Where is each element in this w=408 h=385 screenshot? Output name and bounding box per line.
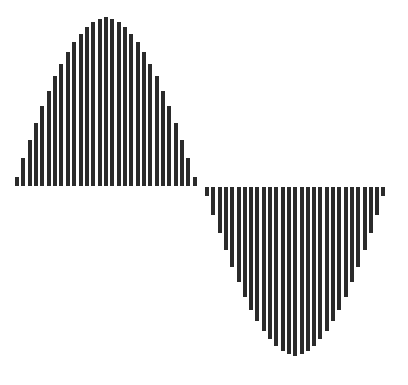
negative-bar xyxy=(300,187,304,354)
negative-bar xyxy=(293,187,297,356)
negative-bar xyxy=(318,187,322,339)
positive-bar xyxy=(129,34,133,186)
positive-bar xyxy=(117,22,121,186)
positive-bar xyxy=(15,177,19,186)
negative-bar xyxy=(325,187,329,331)
positive-bar xyxy=(21,158,25,186)
negative-bar xyxy=(249,187,253,310)
positive-bar xyxy=(136,42,140,186)
negative-bar xyxy=(230,187,234,267)
negative-bar xyxy=(274,187,278,346)
negative-bar xyxy=(281,187,285,351)
positive-bar xyxy=(59,64,63,187)
positive-bar xyxy=(53,76,57,186)
negative-bar xyxy=(356,187,360,267)
positive-bar xyxy=(123,27,127,186)
positive-bar xyxy=(180,140,184,186)
negative-bar xyxy=(211,187,215,215)
negative-bar xyxy=(312,187,316,346)
negative-bar xyxy=(369,187,373,233)
positive-bar xyxy=(79,34,83,186)
positive-bar xyxy=(104,17,108,186)
positive-bar xyxy=(174,123,178,186)
positive-bar xyxy=(193,177,197,186)
negative-bar xyxy=(331,187,335,321)
positive-bar xyxy=(167,106,171,186)
positive-bar xyxy=(142,52,146,186)
positive-bar xyxy=(155,76,159,186)
negative-bar xyxy=(255,187,259,321)
negative-bar xyxy=(287,187,291,354)
negative-bar xyxy=(262,187,266,331)
positive-bar xyxy=(161,91,165,186)
negative-bar xyxy=(344,187,348,297)
negative-bar xyxy=(205,187,209,196)
negative-bar xyxy=(375,187,379,215)
positive-bar xyxy=(91,22,95,186)
negative-bar xyxy=(381,187,385,196)
positive-bar xyxy=(186,158,190,186)
negative-bar xyxy=(306,187,310,351)
positive-bar xyxy=(72,42,76,186)
positive-bar xyxy=(85,27,89,186)
positive-bar xyxy=(28,140,32,186)
negative-bar xyxy=(237,187,241,282)
positive-bar xyxy=(34,123,38,186)
positive-bar xyxy=(40,106,44,186)
positive-bar xyxy=(110,19,114,186)
negative-bar xyxy=(337,187,341,310)
positive-bar xyxy=(148,64,152,187)
negative-bar xyxy=(350,187,354,282)
negative-bar xyxy=(243,187,247,297)
negative-bar xyxy=(218,187,222,233)
negative-bar xyxy=(363,187,367,250)
positive-bar xyxy=(98,19,102,186)
sine-wave-bar-chart xyxy=(0,0,408,385)
negative-bar xyxy=(268,187,272,339)
positive-bar xyxy=(47,91,51,186)
negative-bar xyxy=(224,187,228,250)
positive-bar xyxy=(66,52,70,186)
